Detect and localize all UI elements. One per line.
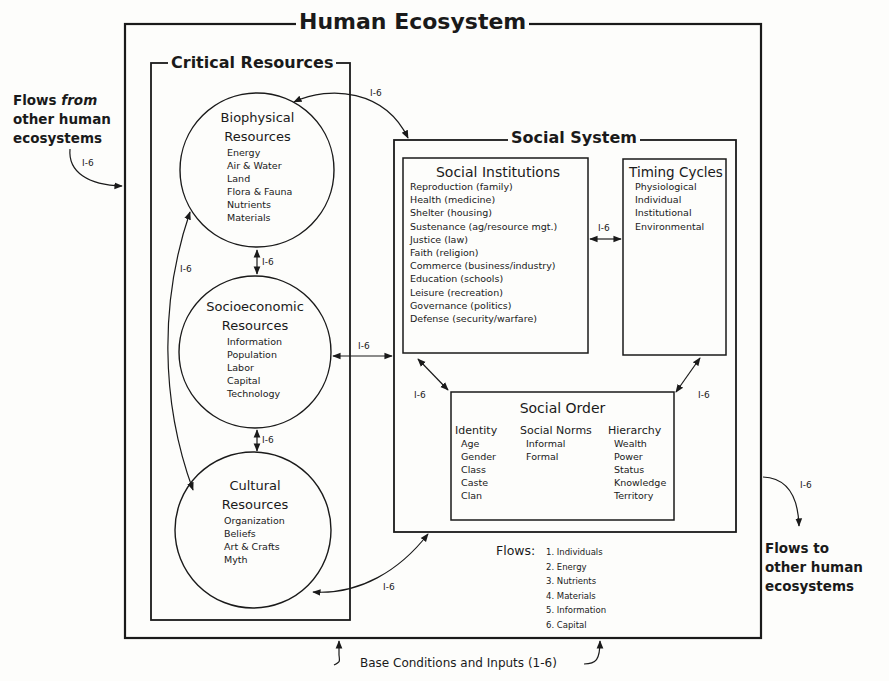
- flow-tag: I-6: [383, 582, 395, 592]
- social-institutions: Social Institutions Reproduction (family…: [410, 164, 586, 325]
- flow-tag: I-6: [698, 390, 710, 400]
- social-order-title: Social Order: [451, 400, 674, 416]
- flows-legend-label: Flows:: [496, 543, 535, 558]
- flow-tag: I-6: [82, 158, 94, 168]
- flow-tag: I-6: [800, 480, 812, 490]
- flows-from-label: Flows from other human ecosystems: [13, 91, 111, 148]
- flows-to-label: Flows to other human ecosystems: [765, 539, 863, 596]
- diagram-title: Human Ecosystem: [296, 9, 529, 34]
- timing-cycles: Timing Cycles Physiological Individual I…: [626, 164, 726, 233]
- social-norms-column: Social Norms Informal Formal: [520, 424, 592, 463]
- flow-tag: I-6: [262, 435, 274, 445]
- flow-tag: I-6: [414, 390, 426, 400]
- flow-tag: I-6: [262, 257, 274, 267]
- flow-tag: I-6: [180, 264, 192, 274]
- cultural-list: Organization Beliefs Art & Crafts Myth: [200, 514, 310, 566]
- flow-tag: I-6: [370, 88, 382, 98]
- social-system-title: Social System: [508, 128, 640, 147]
- flows-legend-list: 1. Individuals 2. Energy 3. Nutrients 4.…: [546, 545, 606, 632]
- hierarchy-column: Hierarchy Wealth Power Status Knowledge …: [608, 424, 666, 502]
- critical-resources-title: Critical Resources: [168, 53, 336, 72]
- flow-tag: I-6: [598, 223, 610, 233]
- flow-tag: I-6: [358, 341, 370, 351]
- identity-column: Identity Age Gender Class Caste Clan: [455, 424, 497, 502]
- biophysical-list: Energy Air & Water Land Flora & Fauna Nu…: [205, 146, 310, 224]
- institutions-list: Reproduction (family) Health (medicine) …: [410, 180, 586, 325]
- socioeconomic-list: Information Population Labor Capital Tec…: [195, 335, 315, 400]
- base-conditions-label: Base Conditions and Inputs (1-6): [360, 656, 557, 670]
- socioeconomic-resources: Socioeconomic Resources Information Popu…: [195, 297, 315, 400]
- timing-cycles-list: Physiological Individual Institutional E…: [626, 180, 726, 233]
- diagram-lines: [0, 0, 889, 681]
- cultural-resources: Cultural Resources Organization Beliefs …: [200, 476, 310, 566]
- biophysical-resources: Biophysical Resources Energy Air & Water…: [205, 108, 310, 224]
